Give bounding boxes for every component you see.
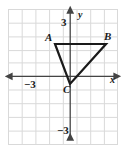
y-axis-label: y bbox=[78, 10, 82, 20]
y-axis-tick-3: 3 bbox=[61, 17, 67, 28]
vertex-label-c: C bbox=[63, 84, 70, 95]
coordinate-plane-figure: A B C x y 3 −3 −3 bbox=[0, 0, 126, 155]
triangle-abc bbox=[55, 44, 106, 84]
vertex-label-a: A bbox=[45, 32, 52, 43]
x-axis-tick-negative-3: −3 bbox=[24, 79, 36, 90]
vertex-label-b: B bbox=[104, 31, 111, 42]
x-axis-label: x bbox=[110, 75, 115, 85]
y-axis-tick-negative-3: −3 bbox=[57, 125, 69, 136]
